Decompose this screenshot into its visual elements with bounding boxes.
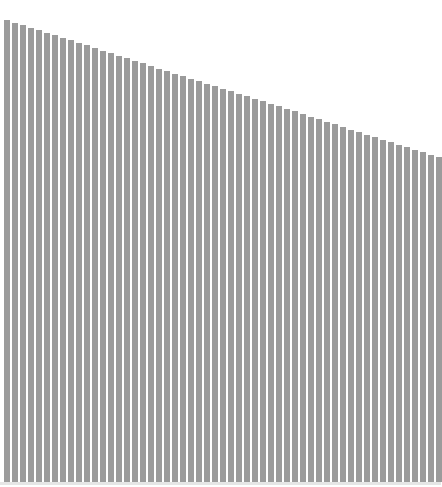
bar [180, 76, 186, 482]
bar [348, 130, 354, 483]
bar [380, 140, 386, 482]
bar [356, 132, 362, 482]
bar [68, 40, 74, 482]
bar [428, 155, 434, 482]
bar [252, 99, 258, 482]
bar [4, 20, 10, 482]
bar [308, 117, 314, 482]
bar [292, 111, 298, 482]
bar [412, 150, 418, 482]
bar [148, 66, 154, 482]
bar [268, 104, 274, 482]
bar [76, 43, 82, 482]
bar [20, 25, 26, 482]
bar [300, 114, 306, 482]
bar [284, 109, 290, 482]
bar [332, 124, 338, 482]
bar [316, 119, 322, 482]
bar [212, 86, 218, 482]
bar [132, 61, 138, 482]
bar [188, 79, 194, 482]
bar [116, 56, 122, 482]
bar [60, 38, 66, 482]
bar [260, 101, 266, 482]
bar [204, 84, 210, 482]
bar [372, 137, 378, 482]
bar [228, 91, 234, 482]
bar [420, 152, 426, 482]
bar [36, 30, 42, 482]
bar [124, 58, 130, 482]
bar [340, 127, 346, 482]
bar [44, 33, 50, 482]
bar [244, 96, 250, 482]
bar [164, 71, 170, 482]
bar [236, 94, 242, 482]
bar [84, 45, 90, 482]
bar [172, 74, 178, 482]
bar [276, 106, 282, 482]
bar [156, 69, 162, 482]
bar [436, 157, 442, 482]
bar [12, 23, 18, 482]
bar [92, 48, 98, 482]
bar [364, 135, 370, 482]
bar [404, 147, 410, 482]
bar [388, 142, 394, 482]
bar [396, 145, 402, 482]
bar [140, 63, 146, 482]
bar [100, 51, 106, 483]
chart-baseline [0, 482, 441, 485]
bar [324, 122, 330, 482]
bar [28, 28, 34, 482]
bar [108, 53, 114, 482]
bar [196, 81, 202, 482]
bar [52, 35, 58, 482]
bar [220, 89, 226, 482]
